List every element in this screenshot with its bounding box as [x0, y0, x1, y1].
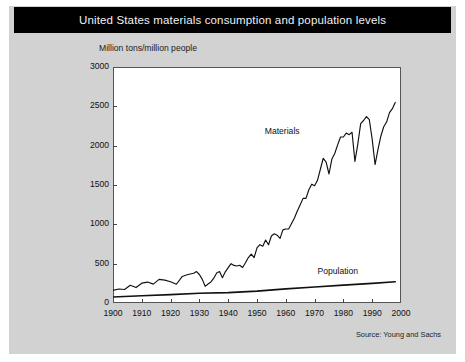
y-tickmark-1000 — [113, 224, 117, 225]
y-tickmark-2000 — [113, 146, 117, 147]
y-tick-1000: 1000 — [63, 218, 109, 228]
y-tick-2000: 2000 — [63, 140, 109, 150]
population-series-label: Population — [317, 266, 358, 276]
x-tickmark-1920 — [171, 299, 172, 303]
y-tick-500: 500 — [63, 258, 109, 268]
x-tickmark-1970 — [315, 299, 316, 303]
x-tick-2000: 2000 — [381, 308, 421, 318]
y-tickmark-2500 — [113, 106, 117, 107]
x-tickmark-1960 — [286, 299, 287, 303]
y-tick-2500: 2500 — [63, 100, 109, 110]
chart-figure: United States materials consumption and … — [0, 0, 465, 362]
x-tickmark-1910 — [142, 299, 143, 303]
materials-series-line — [113, 102, 395, 290]
x-tickmark-1930 — [199, 299, 200, 303]
y-tickmark-500 — [113, 264, 117, 265]
y-tick-0: 0 — [63, 297, 109, 307]
x-tickmark-1980 — [343, 299, 344, 303]
y-tick-1500: 1500 — [63, 179, 109, 189]
y-tick-3000: 3000 — [63, 61, 109, 71]
source-note: Source: Young and Sachs — [356, 330, 441, 339]
y-tickmark-1500 — [113, 185, 117, 186]
materials-series-label: Materials — [265, 126, 300, 136]
population-series-line — [113, 282, 395, 297]
x-tickmark-1940 — [228, 299, 229, 303]
x-tickmark-1950 — [257, 299, 258, 303]
y-axis-unit-label: Million tons/million people — [99, 43, 197, 53]
page-title: United States materials consumption and … — [14, 7, 451, 33]
x-tickmark-1990 — [372, 299, 373, 303]
chart-title-bar: United States materials consumption and … — [14, 7, 451, 33]
